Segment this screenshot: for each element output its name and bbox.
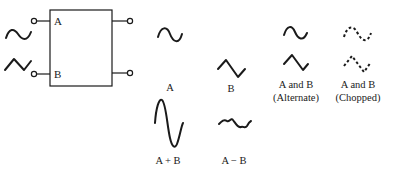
triangle-wave-icon [218,60,245,77]
input-label-a: A [54,15,62,27]
display-a-minus-b: A − B [219,119,251,166]
dashed-triangle-wave-icon [344,56,371,72]
sine-wave-icon [158,28,182,41]
triangle-wave-icon [5,59,31,70]
display-a-plus-b: A + B [155,100,183,166]
display-label-alternate: A and B [279,79,313,90]
display-label-a: A [166,82,174,93]
display-a: A [158,28,182,93]
input-b-signal [5,59,31,70]
display-sublabel-alternate: (Alternate) [273,92,320,104]
sum-wave-icon [155,100,183,147]
display-a-and-b-alternate: A and B (Alternate) [273,27,320,104]
display-label-a-minus-b: A − B [221,155,246,166]
terminal-circle-icon [31,18,36,23]
display-label-chopped: A and B [341,79,375,90]
display-label-a-plus-b: A + B [155,155,180,166]
sine-wave-icon [6,30,31,39]
difference-wave-icon [219,119,251,127]
input-a-signal [6,30,31,39]
display-sublabel-chopped: (Chopped) [336,92,381,104]
input-label-b: B [54,68,61,80]
display-a-and-b-chopped: A and B (Chopped) [336,28,381,104]
input-terminal-b [31,71,50,76]
input-terminal-a [31,18,50,23]
display-label-b: B [227,83,234,94]
triangle-wave-icon [284,55,308,70]
terminal-circle-icon [127,70,132,75]
output-terminal-1 [112,18,133,23]
dual-channel-diagram: A B A B A and B (Alternate) A and B (Cho… [0,0,396,169]
display-b: B [218,60,245,94]
terminal-circle-icon [127,18,132,23]
dashed-sine-wave-icon [344,28,371,41]
output-terminal-2 [112,70,133,75]
terminal-circle-icon [31,71,36,76]
sine-wave-icon [284,27,307,39]
